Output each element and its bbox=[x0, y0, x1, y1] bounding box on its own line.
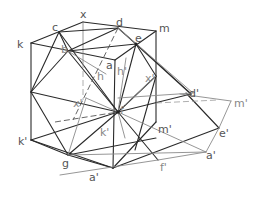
label-m-prime-right: m' bbox=[234, 97, 248, 110]
geometry-diagram: x c d m k b e a h h' x' x' d' m' f k' m'… bbox=[0, 0, 255, 197]
label-a-prime-right: a' bbox=[206, 149, 216, 162]
label-d: d bbox=[116, 16, 123, 29]
label-e: e bbox=[135, 32, 142, 45]
label-g: g bbox=[62, 157, 69, 170]
edge-b-d bbox=[68, 28, 118, 51]
label-k-prime-inner: k' bbox=[100, 126, 109, 139]
label-e-prime: e' bbox=[219, 127, 229, 140]
edge-g-bottom bbox=[68, 155, 113, 168]
label-x-prime-right: x' bbox=[145, 72, 155, 85]
edge-b-e bbox=[68, 44, 136, 51]
edge-b-mid bbox=[31, 51, 68, 92]
label-m: m bbox=[159, 22, 170, 35]
edge-fprime-bottomleft bbox=[60, 160, 158, 175]
label-x: x bbox=[80, 8, 87, 21]
label-h: h bbox=[97, 70, 104, 83]
edge-g-aprime bbox=[68, 152, 206, 155]
edge-f-dprime bbox=[118, 94, 191, 112]
label-d-prime: d' bbox=[189, 87, 199, 100]
edge-mprime-eprime bbox=[219, 101, 231, 128]
edge-kprime-g bbox=[31, 140, 68, 155]
label-f-prime: f' bbox=[160, 161, 167, 174]
label-a-prime-bottom: a' bbox=[89, 171, 99, 184]
edge-e-f bbox=[118, 44, 136, 112]
label-c: c bbox=[52, 21, 58, 34]
label-k-prime: k' bbox=[18, 135, 27, 148]
label-x-prime-left: x' bbox=[73, 97, 83, 110]
label-k: k bbox=[17, 38, 24, 51]
edge-dprime-mprime bbox=[180, 94, 231, 101]
edge-mid-g bbox=[31, 92, 68, 155]
label-h-prime: h' bbox=[117, 65, 127, 78]
label-a: a bbox=[106, 59, 113, 72]
edge-g-eprime bbox=[68, 138, 156, 155]
label-b: b bbox=[61, 43, 68, 56]
label-m-prime-inner: m' bbox=[158, 123, 172, 136]
